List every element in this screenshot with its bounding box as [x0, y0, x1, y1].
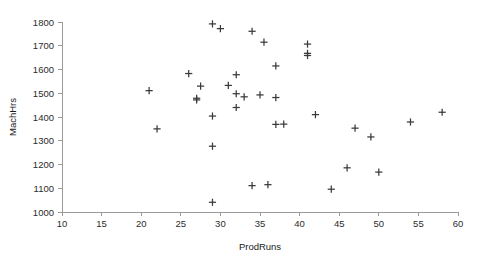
data-point — [209, 112, 216, 119]
data-point — [272, 94, 279, 101]
x-tick-label: 25 — [176, 218, 187, 229]
y-tick-label: 1000 — [33, 207, 54, 218]
plot-area: 100011001200130014001500160017001800 101… — [0, 0, 481, 262]
y-tick-label: 1700 — [33, 40, 54, 51]
x-tick-label: 30 — [215, 218, 226, 229]
y-axis-title: MachHrs — [7, 98, 18, 136]
data-point — [264, 181, 271, 188]
data-point — [197, 83, 204, 90]
data-point — [304, 40, 311, 47]
y-tick-label: 1800 — [33, 17, 54, 28]
y-tick-label: 1100 — [34, 183, 54, 194]
data-point — [233, 104, 240, 111]
data-point — [367, 133, 374, 140]
data-point — [344, 164, 351, 171]
data-point — [248, 28, 255, 35]
data-point — [225, 82, 232, 89]
x-tick-label: 60 — [453, 218, 464, 229]
data-point — [260, 39, 267, 46]
data-point — [146, 87, 153, 94]
data-points — [146, 20, 446, 206]
data-point — [217, 25, 224, 32]
x-tick-label: 45 — [334, 218, 345, 229]
data-point — [256, 91, 263, 98]
data-point — [272, 62, 279, 69]
data-point — [193, 96, 200, 103]
y-tick-label: 1600 — [33, 64, 54, 75]
x-tick-label: 50 — [374, 218, 385, 229]
data-point — [280, 121, 287, 128]
y-tick-label: 1500 — [33, 88, 54, 99]
y-axis-ticks: 100011001200130014001500160017001800 — [33, 17, 62, 218]
data-point — [209, 20, 216, 27]
x-tick-label: 35 — [255, 218, 266, 229]
data-point — [233, 71, 240, 78]
y-tick-label: 1400 — [33, 112, 54, 123]
scatter-chart: 100011001200130014001500160017001800 101… — [0, 0, 481, 262]
y-tick-label: 1200 — [33, 159, 54, 170]
x-tick-label: 40 — [294, 218, 305, 229]
data-point — [248, 182, 255, 189]
data-point — [407, 118, 414, 125]
data-point — [351, 125, 358, 132]
x-tick-label: 20 — [136, 218, 147, 229]
y-tick-label: 1300 — [33, 135, 54, 146]
data-point — [153, 125, 160, 132]
x-axis-ticks: 1015202530354045505560 — [57, 212, 464, 229]
data-point — [209, 199, 216, 206]
data-point — [312, 111, 319, 118]
data-point — [375, 169, 382, 176]
x-tick-label: 15 — [96, 218, 107, 229]
data-point — [209, 143, 216, 150]
data-point — [241, 93, 248, 100]
data-point — [439, 109, 446, 116]
data-point — [233, 90, 240, 97]
data-point — [328, 186, 335, 193]
data-point — [272, 121, 279, 128]
data-point — [185, 70, 192, 77]
x-axis-title: ProdRuns — [239, 241, 281, 252]
x-tick-label: 10 — [57, 218, 68, 229]
x-tick-label: 55 — [413, 218, 424, 229]
